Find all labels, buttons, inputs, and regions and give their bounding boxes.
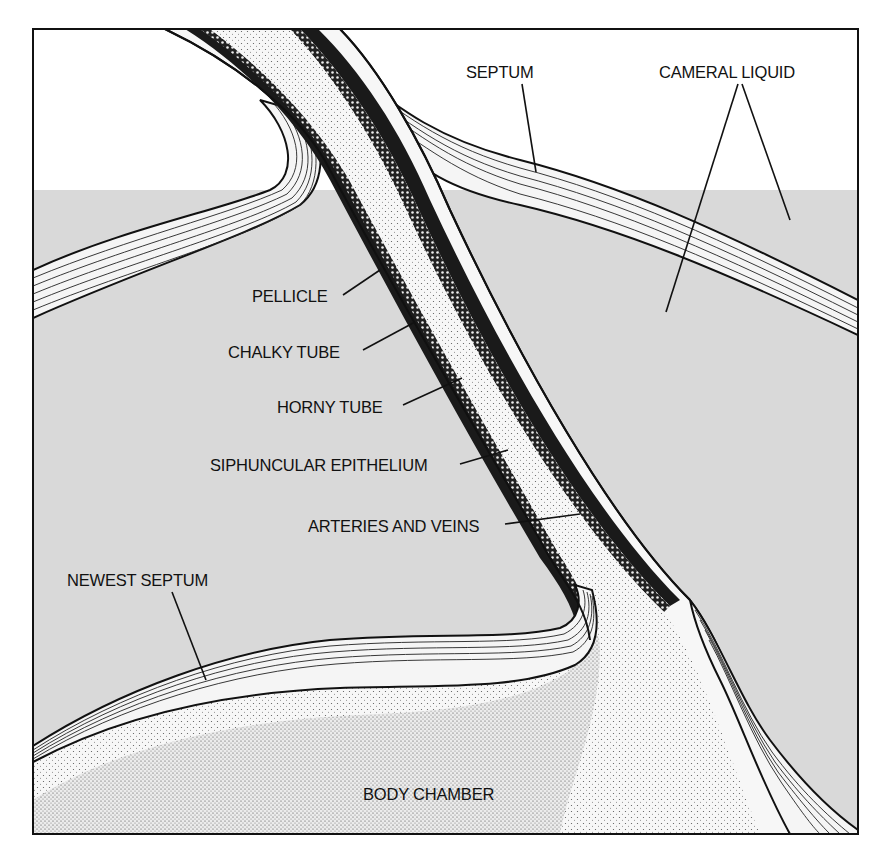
label-chalky-tube: CHALKY TUBE [228,343,340,361]
label-cameral-liquid: CAMERAL LIQUID [659,63,795,81]
label-body-chamber: BODY CHAMBER [363,785,494,803]
label-horny-tube: HORNY TUBE [277,398,383,416]
diagram-frame [33,29,858,834]
label-pellicle: PELLICLE [252,287,328,305]
label-septum: SEPTUM [466,63,534,81]
label-siphuncular-epithelium: SIPHUNCULAR EPITHELIUM [210,456,427,474]
label-arteries-and-veins: ARTERIES AND VEINS [308,517,479,535]
siphuncle-diagram: SEPTUM CAMERAL LIQUID PELLICLE CHALKY TU… [0,0,876,842]
label-newest-septum: NEWEST SEPTUM [67,571,208,589]
